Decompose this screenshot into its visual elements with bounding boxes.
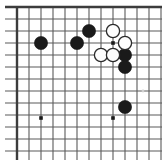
board-background (0, 0, 162, 160)
black-stone-4[interactable] (118, 48, 131, 61)
go-board-diagram (0, 0, 162, 160)
black-stone-2[interactable] (70, 36, 83, 49)
star-point-upper (111, 41, 115, 45)
white-stone-3[interactable] (94, 48, 107, 61)
black-stone-5[interactable] (118, 60, 131, 73)
faint-marks (142, 90, 145, 93)
star-point-left (39, 116, 43, 120)
white-stone-1[interactable] (106, 24, 119, 37)
black-stone-6[interactable] (118, 100, 131, 113)
black-stone-1[interactable] (34, 36, 47, 49)
white-stone-2[interactable] (118, 36, 131, 49)
star-point-center (111, 116, 115, 120)
faint-mark-right (142, 90, 145, 93)
black-stone-3[interactable] (82, 24, 95, 37)
go-board-canvas (0, 0, 162, 160)
white-stone-4[interactable] (106, 48, 119, 61)
